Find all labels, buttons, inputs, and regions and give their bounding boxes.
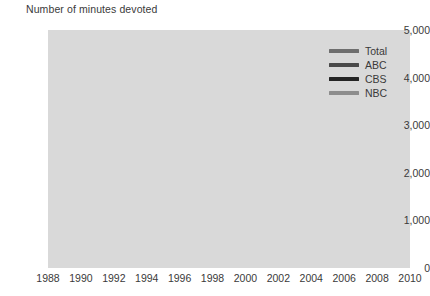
x-axis-tick-label: 2004 bbox=[300, 272, 323, 284]
legend-item-nbc[interactable]: NBC bbox=[329, 88, 387, 99]
y-axis-tick-label: 5,000 bbox=[386, 24, 430, 36]
x-axis-tick-label: 1988 bbox=[36, 272, 59, 284]
legend-label: NBC bbox=[365, 88, 387, 99]
legend-item-total[interactable]: Total bbox=[329, 46, 387, 57]
x-axis-tick-label: 2006 bbox=[332, 272, 355, 284]
x-axis-tick-label: 2008 bbox=[365, 272, 388, 284]
chart-title: Number of minutes devoted bbox=[26, 3, 157, 15]
x-axis-tick-label: 1998 bbox=[201, 272, 224, 284]
y-axis-tick-label: 1,000 bbox=[386, 214, 430, 226]
x-axis-tick-label: 2010 bbox=[398, 272, 421, 284]
legend-swatch-icon bbox=[329, 63, 359, 67]
legend-label: Total bbox=[365, 46, 387, 57]
legend-swatch-icon bbox=[329, 91, 359, 95]
line-chart: Number of minutes devoted 01,0002,0003,0… bbox=[0, 0, 430, 296]
y-axis-tick-label: 4,000 bbox=[386, 72, 430, 84]
x-axis-tick-label: 1992 bbox=[102, 272, 125, 284]
y-axis-tick-label: 2,000 bbox=[386, 167, 430, 179]
legend-label: CBS bbox=[365, 74, 387, 85]
x-axis-tick-label: 1994 bbox=[135, 272, 158, 284]
chart-legend: TotalABCCBSNBC bbox=[329, 46, 387, 99]
legend-label: ABC bbox=[365, 60, 387, 71]
y-axis-tick-label: 3,000 bbox=[386, 119, 430, 131]
x-axis-tick-label: 1996 bbox=[168, 272, 191, 284]
legend-swatch-icon bbox=[329, 77, 359, 81]
x-axis-tick-label: 1990 bbox=[69, 272, 92, 284]
x-axis-tick-label: 2002 bbox=[267, 272, 290, 284]
legend-swatch-icon bbox=[329, 49, 359, 53]
legend-item-abc[interactable]: ABC bbox=[329, 60, 387, 71]
legend-item-cbs[interactable]: CBS bbox=[329, 74, 387, 85]
x-axis-tick-label: 2000 bbox=[234, 272, 257, 284]
